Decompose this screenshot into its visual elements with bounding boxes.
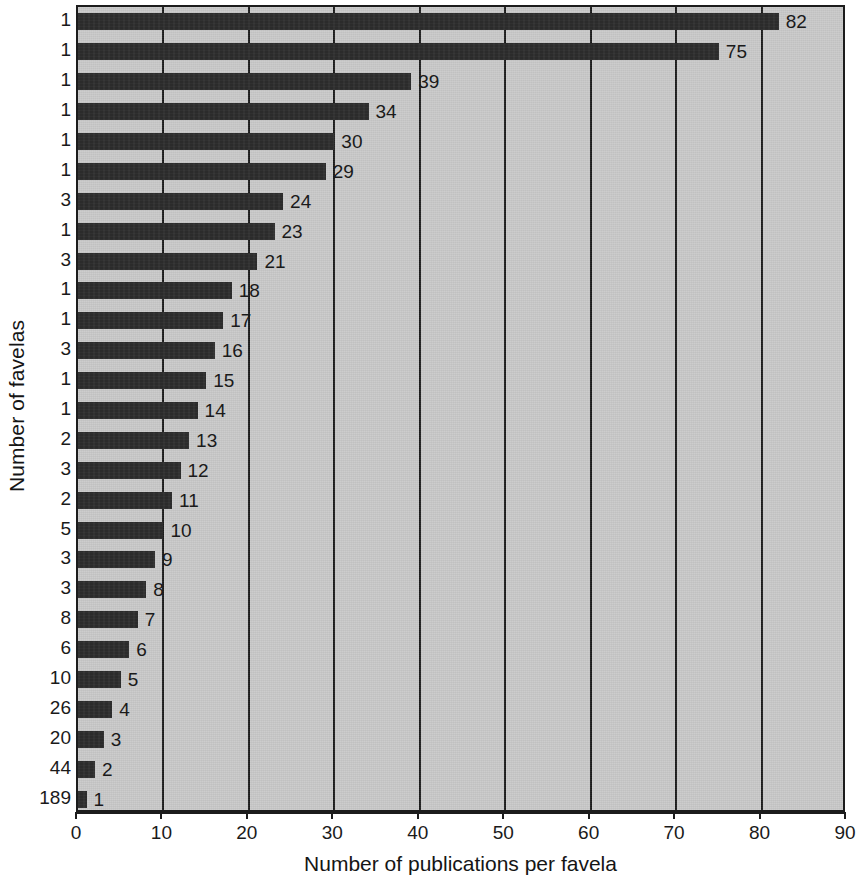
y-axis-tick-label: 1 [26, 35, 72, 65]
bar-row: 16 [78, 342, 243, 359]
bar-value-label: 10 [170, 521, 191, 540]
y-axis-tick-label: 6 [26, 633, 72, 663]
y-axis-tick-label: 1 [26, 274, 72, 304]
bar-row: 5 [78, 671, 138, 688]
y-axis-tick-label: 1 [26, 394, 72, 424]
x-axis-tick-mark [588, 812, 590, 819]
bar [78, 581, 146, 598]
x-axis-tick-label: 0 [71, 823, 82, 842]
bar-value-label: 30 [341, 132, 362, 151]
x-axis-tick-label: 60 [578, 823, 599, 842]
bar-row: 12 [78, 462, 209, 479]
bar [78, 103, 369, 120]
bar-value-label: 11 [179, 491, 199, 510]
x-axis-tick-label: 40 [407, 823, 428, 842]
x-axis-tick-mark [417, 812, 419, 819]
bar [78, 402, 198, 419]
bar [78, 462, 181, 479]
y-axis-tick-label: 2 [26, 423, 72, 453]
y-axis-tick-label: 1 [26, 65, 72, 95]
bar-row: 6 [78, 641, 147, 658]
bar-value-label: 2 [102, 760, 113, 779]
bar-value-label: 21 [264, 252, 285, 271]
bar-value-label: 3 [111, 730, 122, 749]
bar-row: 8 [78, 581, 164, 598]
y-axis-tick-label: 189 [26, 782, 72, 812]
bar [78, 611, 138, 628]
bar [78, 432, 189, 449]
bars-layer: 8275393430292423211817161514131211109876… [78, 7, 843, 810]
x-axis-tick-mark [331, 812, 333, 819]
bar-row: 82 [78, 13, 807, 30]
bar-value-label: 7 [145, 610, 156, 629]
bar-row: 4 [78, 701, 130, 718]
bar-row: 15 [78, 372, 234, 389]
y-axis-tick-label: 3 [26, 543, 72, 573]
bar-value-label: 29 [333, 162, 354, 181]
y-axis-tick-label: 20 [26, 722, 72, 752]
y-axis-tick-label: 1 [26, 214, 72, 244]
x-axis-tick-label: 10 [151, 823, 172, 842]
x-axis-tick-label: 80 [749, 823, 770, 842]
bar [78, 193, 283, 210]
bar-row: 29 [78, 163, 354, 180]
bar [78, 551, 155, 568]
bar-row: 7 [78, 611, 155, 628]
bar [78, 342, 215, 359]
bar-row: 13 [78, 432, 217, 449]
bar-row: 10 [78, 522, 192, 539]
bar-row: 9 [78, 551, 172, 568]
bar [78, 73, 411, 90]
bar-row: 2 [78, 761, 113, 778]
bar-value-label: 5 [128, 670, 139, 689]
bar-value-label: 14 [205, 401, 226, 420]
x-axis-tick-mark [75, 812, 77, 819]
bar [78, 253, 257, 270]
bar-value-label: 1 [94, 790, 105, 809]
bar-value-label: 13 [196, 431, 217, 450]
bar [78, 522, 163, 539]
bar-row: 17 [78, 312, 251, 329]
y-axis-tick-label: 26 [26, 692, 72, 722]
x-axis-tick-label: 30 [322, 823, 343, 842]
x-axis-tick-label: 70 [664, 823, 685, 842]
bar-row: 75 [78, 43, 747, 60]
bar-row: 34 [78, 103, 397, 120]
y-axis-tick-label: 10 [26, 663, 72, 693]
bar [78, 641, 129, 658]
bar-row: 14 [78, 402, 226, 419]
bar-row: 23 [78, 223, 303, 240]
bar [78, 731, 104, 748]
x-axis-tick-mark [844, 812, 846, 819]
bar-row: 39 [78, 73, 439, 90]
bar [78, 163, 326, 180]
bar-value-label: 6 [136, 640, 147, 659]
bar-value-label: 75 [726, 42, 747, 61]
bar-row: 30 [78, 133, 362, 150]
bar-value-label: 39 [418, 72, 439, 91]
bar-row: 24 [78, 193, 311, 210]
y-axis-tick-label: 44 [26, 752, 72, 782]
y-axis-tick-label: 1 [26, 304, 72, 334]
x-axis-tick-mark [160, 812, 162, 819]
y-axis-tick-label: 3 [26, 334, 72, 364]
bar [78, 671, 121, 688]
y-axis-tick-label: 3 [26, 573, 72, 603]
bar-value-label: 17 [230, 311, 251, 330]
y-axis-tick-label: 2 [26, 483, 72, 513]
x-axis-tick-mark [759, 812, 761, 819]
bar-value-label: 34 [376, 102, 397, 121]
bar-row: 3 [78, 731, 121, 748]
y-axis-tick-labels: 111111313113112325338610262044189 [26, 5, 72, 812]
bar-value-label: 8 [153, 580, 164, 599]
bar-value-label: 82 [786, 12, 807, 31]
bar-value-label: 9 [162, 550, 173, 569]
bar-value-label: 16 [222, 341, 243, 360]
bar-value-label: 4 [119, 700, 130, 719]
x-axis-tick-label: 20 [236, 823, 257, 842]
bar-value-label: 12 [188, 461, 209, 480]
bar [78, 312, 223, 329]
bar [78, 282, 232, 299]
bar [78, 492, 172, 509]
y-axis-tick-label: 3 [26, 244, 72, 274]
